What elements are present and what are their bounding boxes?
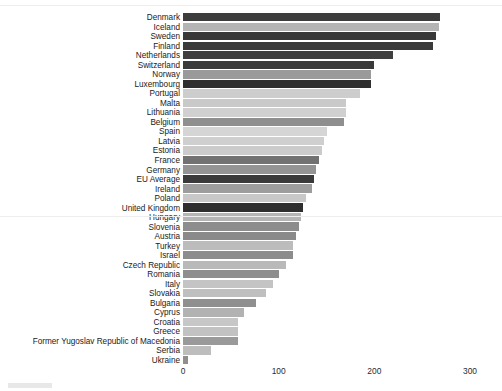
bar: [183, 308, 244, 316]
x-tick-label: 300: [463, 366, 477, 376]
bar: [183, 184, 312, 192]
bar: [183, 356, 188, 364]
category-label: Israel: [160, 251, 180, 260]
bar: [183, 156, 319, 164]
category-label: Finland: [153, 41, 180, 50]
category-label: Portugal: [150, 89, 181, 98]
x-axis: 0100200300: [0, 366, 502, 380]
category-label: Italy: [165, 279, 180, 288]
reference-hline-top: [0, 5, 502, 6]
category-label: Sweden: [150, 32, 180, 41]
category-label: Poland: [155, 194, 181, 203]
bar: [183, 280, 273, 288]
category-label: Spain: [159, 127, 180, 136]
bar: [183, 99, 346, 107]
category-label: Former Yugoslav Republic of Macedonia: [33, 336, 180, 345]
bar: [183, 13, 440, 21]
footer-watermark: [8, 383, 52, 388]
category-label: Switzerland: [138, 60, 180, 69]
bar: [183, 108, 346, 116]
bar: [183, 42, 433, 50]
category-label: Greece: [153, 327, 180, 336]
category-label: Ukraine: [152, 355, 180, 364]
bar: [183, 222, 299, 230]
bar: [183, 337, 238, 345]
category-label: Croatia: [154, 317, 180, 326]
category-label: Denmark: [147, 13, 180, 22]
bar-chart: DenmarkIcelandSwedenFinlandNetherlandsSw…: [0, 0, 502, 391]
bar: [183, 251, 293, 259]
category-label: Romania: [147, 270, 180, 279]
category-label: France: [155, 155, 180, 164]
bar: [183, 241, 293, 249]
category-label: Estonia: [153, 146, 180, 155]
bar: [183, 175, 314, 183]
bar: [183, 270, 279, 278]
bar: [183, 289, 266, 297]
bar: [183, 89, 360, 97]
category-label: Hungary: [149, 213, 180, 222]
bar: [183, 194, 306, 202]
category-label: Ireland: [155, 184, 180, 193]
category-label: Latvia: [158, 136, 180, 145]
category-label: Czech Republic: [123, 260, 180, 269]
category-label: Malta: [160, 98, 180, 107]
category-label: EU Average: [136, 175, 180, 184]
category-label: Lithuania: [147, 108, 180, 117]
category-label: Belgium: [150, 117, 180, 126]
bar: [183, 299, 256, 307]
category-label: Austria: [155, 232, 180, 241]
bar: [183, 213, 301, 221]
bar: [183, 232, 296, 240]
category-label: United Kingdom: [122, 203, 180, 212]
bar: [183, 70, 371, 78]
category-label: Slovenia: [149, 222, 180, 231]
category-label: Netherlands: [136, 51, 180, 60]
category-label: Slovakia: [149, 289, 180, 298]
category-label: Bulgaria: [150, 298, 180, 307]
bar: [183, 118, 344, 126]
bar: [183, 80, 371, 88]
bar: [183, 51, 393, 59]
bar: [183, 327, 238, 335]
x-tick-label: 100: [272, 366, 286, 376]
bar: [183, 146, 322, 154]
bar: [183, 261, 286, 269]
category-label: Luxembourg: [134, 79, 180, 88]
category-label: Norway: [152, 70, 180, 79]
plot-area: DenmarkIcelandSwedenFinlandNetherlandsSw…: [0, 0, 502, 391]
bar: [183, 32, 436, 40]
category-label: Germany: [146, 165, 180, 174]
bar-row: Ukraine: [0, 355, 502, 365]
bar: [183, 127, 327, 135]
bar: [183, 165, 316, 173]
bar: [183, 61, 374, 69]
category-label: Iceland: [154, 22, 180, 31]
bar: [183, 137, 324, 145]
bar: [183, 203, 303, 211]
category-label: Turkey: [155, 241, 180, 250]
category-label: Serbia: [156, 346, 180, 355]
x-tick-label: 200: [367, 366, 381, 376]
x-tick-label: 0: [181, 366, 186, 376]
reference-hline-mid: [0, 216, 502, 217]
bar: [183, 23, 439, 31]
category-label: Cyprus: [154, 308, 180, 317]
bar: [183, 318, 238, 326]
bar: [183, 346, 211, 354]
